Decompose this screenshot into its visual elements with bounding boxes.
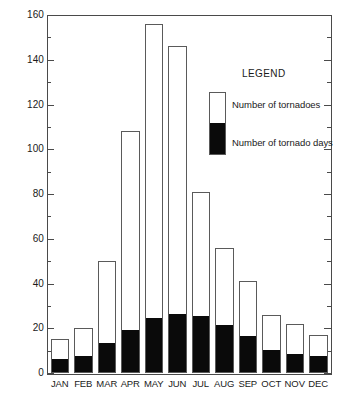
bar-group [286,324,305,373]
bar-group [215,248,234,373]
x-axis-tick-label: MAY [142,378,166,389]
bar-tornado-days [122,330,139,373]
bar-tornadoes [98,261,117,373]
legend-swatch-dark-half [210,123,225,154]
bar-tornado-days [193,316,210,372]
bars-layer [0,0,347,401]
bar-group [51,339,70,373]
bar-tornado-days [75,356,92,372]
x-axis-tick-label: APR [119,378,143,389]
x-axis-tick-label: JUN [166,378,190,389]
bar-group [239,281,258,373]
bar-tornadoes [309,335,328,373]
bar-tornadoes [192,192,211,373]
x-axis-tick-label: AUG [213,378,237,389]
bar-group [74,328,93,373]
bar-tornadoes [262,315,281,373]
legend-title: LEGEND [242,68,286,79]
x-axis-tick-label: NOV [283,378,307,389]
bar-tornadoes [74,328,93,373]
bar-group [192,192,211,373]
bar-tornado-days [287,354,304,372]
bar-tornado-days [310,356,327,372]
tornado-bar-chart: 020406080100120140160 JANFEBMARAPRMAYJUN… [0,0,347,401]
legend-entry-label-tornado-days: Number of tornado days [232,137,333,148]
bar-tornadoes [145,24,164,373]
bar-tornadoes [168,46,187,373]
bar-group [98,261,117,373]
x-axis-tick-label: MAR [95,378,119,389]
x-axis-tick-label: JAN [48,378,72,389]
bar-tornado-days [240,336,257,372]
bar-tornadoes [51,339,70,373]
bar-tornado-days [146,318,163,372]
x-axis-tick-label: JUL [189,378,213,389]
bar-group [262,315,281,373]
bar-group [121,131,140,373]
bar-group [168,46,187,373]
legend-entry-label-tornadoes: Number of tornadoes [232,99,320,110]
bar-tornadoes [286,324,305,373]
bar-tornado-days [263,350,280,372]
bar-group [309,335,328,373]
bar-group [145,24,164,373]
x-axis-tick-label: OCT [260,378,284,389]
x-axis-labels: JANFEBMARAPRMAYJUNJULAUGSEPOCTNOVDEC [0,378,347,394]
bar-tornado-days [99,343,116,372]
x-axis-tick-label: DEC [307,378,331,389]
bar-tornado-days [52,359,69,372]
bar-tornado-days [169,314,186,372]
bar-tornado-days [216,325,233,372]
x-axis-tick-label: FEB [72,378,96,389]
bar-tornadoes [121,131,140,373]
bar-tornadoes [239,281,258,373]
legend-swatch [209,92,226,155]
x-axis-tick-label: SEP [236,378,260,389]
chart-legend: LEGEND Number of tornadoes Number of tor… [206,68,336,164]
bar-tornadoes [215,248,234,373]
